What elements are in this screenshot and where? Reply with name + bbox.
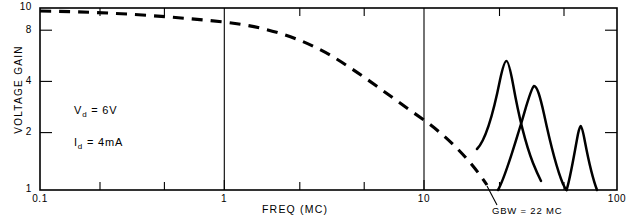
x-tick-label-1: 1 [210, 193, 238, 204]
id-value: = 4mA [87, 136, 123, 148]
curve-broadband-rolloff [40, 11, 487, 185]
annotation-drain-current: Id = 4mA [74, 136, 123, 151]
id-subscript: d [78, 142, 83, 151]
x-axis-ticks-top [100, 8, 564, 16]
y-axis-title: VOLTAGE GAIN [13, 44, 24, 136]
figure-voltage-gain-vs-freq: 10 8 4 2 1 0.1 1 10 100 VOLTAGE GAIN FRE… [0, 0, 635, 222]
x-axis-ticks-bottom [100, 180, 564, 190]
x-axis-title: FREQ (MC) [262, 203, 328, 215]
vd-symbol: V [74, 104, 82, 116]
x-tick-label-100: 100 [603, 193, 631, 204]
annotation-drain-voltage: Vd = 6V [74, 104, 117, 119]
y-axis-ticks-left [40, 30, 52, 132]
y-tick-label-10: 10 [2, 1, 32, 12]
x-tick-label-10: 10 [410, 193, 438, 204]
vd-subscript: d [82, 110, 87, 119]
curve-tuned-peak-3 [567, 126, 598, 190]
vd-value: = 6V [91, 104, 117, 116]
annotation-gbw: GBW = 22 MC [492, 205, 562, 216]
plot-frame [40, 8, 617, 190]
gbw-leader-line [487, 186, 497, 205]
x-tick-label-0p1: 0.1 [26, 193, 54, 204]
curve-tuned-peak-2 [498, 86, 567, 190]
decade-gridlines [224, 8, 424, 190]
y-axis-ticks-right [605, 30, 617, 132]
y-tick-label-8: 8 [2, 24, 32, 35]
